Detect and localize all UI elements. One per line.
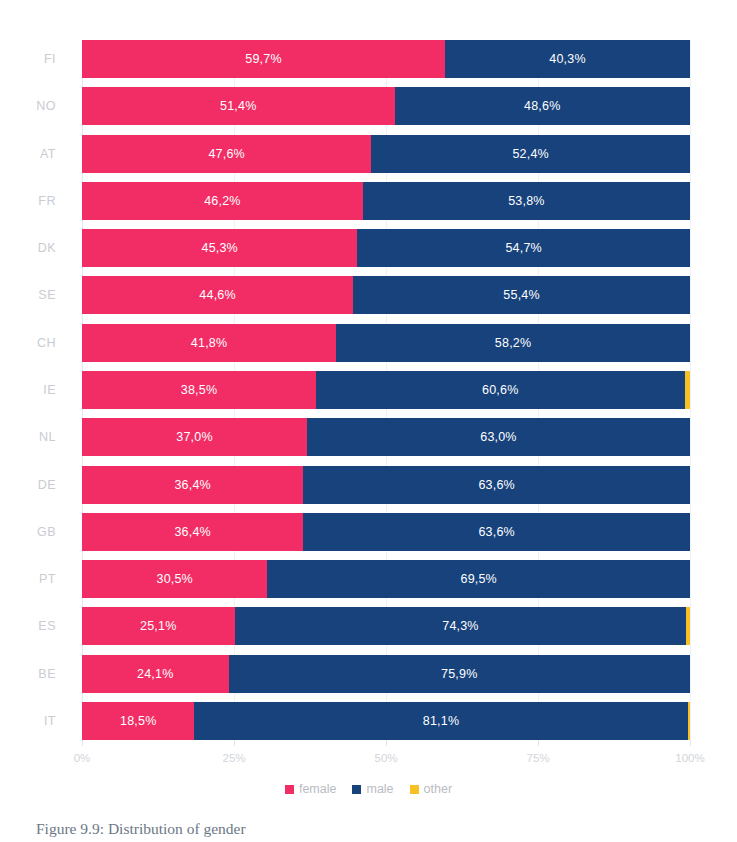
bar-value-label: 63,0% [480, 430, 516, 444]
bar-segment-male-fi: 40,3% [445, 40, 690, 78]
x-axis-tick-label-100: 100% [675, 752, 704, 764]
bar-segment-female-be: 24,1% [82, 655, 229, 693]
x-axis-tick-label-25: 25% [222, 752, 245, 764]
bar-segment-female-no: 51,4% [82, 87, 395, 125]
bar-value-label: 52,4% [512, 147, 548, 161]
x-axis-ticks: 0%25%50%75%100% [82, 746, 690, 770]
bar-value-label: 53,8% [508, 194, 544, 208]
bar-segment-female-it: 18,5% [82, 702, 194, 740]
bar-value-label: 63,6% [478, 478, 514, 492]
x-axis-tick-label-50: 50% [374, 752, 397, 764]
bar-segment-female-es: 25,1% [82, 607, 235, 645]
bar-segment-male-it: 81,1% [194, 702, 687, 740]
bar-segment-male-es: 74,3% [235, 607, 687, 645]
bar-segment-male-at: 52,4% [371, 135, 690, 173]
bar-value-label: 51,4% [220, 99, 256, 113]
bar-row: 36,4%63,6% [82, 513, 690, 551]
bar-segment-male-gb: 63,6% [303, 513, 690, 551]
bar-value-label: 47,6% [208, 147, 244, 161]
bar-value-label: 81,1% [423, 714, 459, 728]
legend-item-male[interactable]: male [352, 782, 393, 796]
bar-value-label: 25,1% [140, 619, 176, 633]
bar-value-label: 36,4% [174, 525, 210, 539]
y-axis-tick-de: DE [0, 466, 70, 504]
y-axis-tick-es: ES [0, 607, 70, 645]
bar-value-label: 44,6% [199, 288, 235, 302]
bar-segment-male-ch: 58,2% [336, 324, 690, 362]
bar-segment-male-fr: 53,8% [363, 182, 690, 220]
legend-swatch-male [352, 785, 361, 794]
bar-segment-other-it [688, 702, 690, 740]
bar-segment-female-gb: 36,4% [82, 513, 303, 551]
bar-segment-male-no: 48,6% [395, 87, 690, 125]
bar-value-label: 41,8% [191, 336, 227, 350]
bar-segment-male-se: 55,4% [353, 276, 690, 314]
bar-row: 45,3%54,7% [82, 229, 690, 267]
bar-row: 38,5%60,6% [82, 371, 690, 409]
legend-label: male [366, 782, 393, 796]
bar-row: 24,1%75,9% [82, 655, 690, 693]
y-axis-tick-nl: NL [0, 418, 70, 456]
figure-caption: Figure 9.9: Distribution of gender [36, 820, 696, 838]
bar-value-label: 46,2% [204, 194, 240, 208]
bar-row: 51,4%48,6% [82, 87, 690, 125]
bar-row: 18,5%81,1% [82, 702, 690, 740]
bar-segment-male-be: 75,9% [229, 655, 690, 693]
stacked-bar-rows: 59,7%40,3%51,4%48,6%47,6%52,4%46,2%53,8%… [82, 40, 690, 740]
x-axis-tick-mark-100 [690, 740, 691, 746]
legend-swatch-other [410, 785, 419, 794]
bar-value-label: 38,5% [181, 383, 217, 397]
bar-value-label: 63,6% [478, 525, 514, 539]
bar-segment-female-dk: 45,3% [82, 229, 357, 267]
bar-value-label: 24,1% [137, 667, 173, 681]
legend-item-other[interactable]: other [410, 782, 453, 796]
bar-value-label: 45,3% [201, 241, 237, 255]
bar-segment-male-ie: 60,6% [316, 371, 684, 409]
y-axis-tick-ch: CH [0, 324, 70, 362]
x-axis-tick-label-75: 75% [526, 752, 549, 764]
bar-segment-female-at: 47,6% [82, 135, 371, 173]
bar-value-label: 55,4% [503, 288, 539, 302]
bar-value-label: 40,3% [549, 52, 585, 66]
bar-row: 59,7%40,3% [82, 40, 690, 78]
y-axis-tick-pt: PT [0, 560, 70, 598]
bar-segment-female-fi: 59,7% [82, 40, 445, 78]
bar-value-label: 75,9% [441, 667, 477, 681]
bar-segment-female-de: 36,4% [82, 466, 303, 504]
bar-row: 41,8%58,2% [82, 324, 690, 362]
bar-segment-male-de: 63,6% [303, 466, 690, 504]
x-axis-tick-mark-25 [234, 740, 235, 746]
y-axis-tick-be: BE [0, 655, 70, 693]
bar-segment-male-dk: 54,7% [357, 229, 690, 267]
bar-value-label: 74,3% [442, 619, 478, 633]
bar-value-label: 59,7% [245, 52, 281, 66]
legend-item-female[interactable]: female [285, 782, 337, 796]
chart-plot-area: 59,7%40,3%51,4%48,6%47,6%52,4%46,2%53,8%… [82, 40, 690, 740]
y-axis-tick-at: AT [0, 135, 70, 173]
y-axis-tick-gb: GB [0, 513, 70, 551]
y-axis-tick-dk: DK [0, 229, 70, 267]
y-axis-tick-fr: FR [0, 182, 70, 220]
bar-value-label: 69,5% [460, 572, 496, 586]
y-axis-tick-ie: IE [0, 371, 70, 409]
bar-row: 37,0%63,0% [82, 418, 690, 456]
bar-row: 47,6%52,4% [82, 135, 690, 173]
bar-segment-other-es [686, 607, 690, 645]
bar-row: 36,4%63,6% [82, 466, 690, 504]
bar-value-label: 60,6% [482, 383, 518, 397]
bar-value-label: 54,7% [505, 241, 541, 255]
bar-segment-male-nl: 63,0% [307, 418, 690, 456]
bar-row: 44,6%55,4% [82, 276, 690, 314]
bar-segment-female-pt: 30,5% [82, 560, 267, 598]
legend-label: female [299, 782, 337, 796]
bar-row: 25,1%74,3% [82, 607, 690, 645]
y-axis-tick-se: SE [0, 276, 70, 314]
y-axis-tick-fi: FI [0, 40, 70, 78]
gridline-100 [690, 40, 691, 740]
figure-container: FINOATFRDKSECHIENLDEGBPTESBEIT 59,7%40,3… [0, 0, 737, 842]
bar-value-label: 58,2% [495, 336, 531, 350]
bar-row: 46,2%53,8% [82, 182, 690, 220]
bar-value-label: 36,4% [174, 478, 210, 492]
x-axis-tick-mark-0 [82, 740, 83, 746]
bar-value-label: 48,6% [524, 99, 560, 113]
